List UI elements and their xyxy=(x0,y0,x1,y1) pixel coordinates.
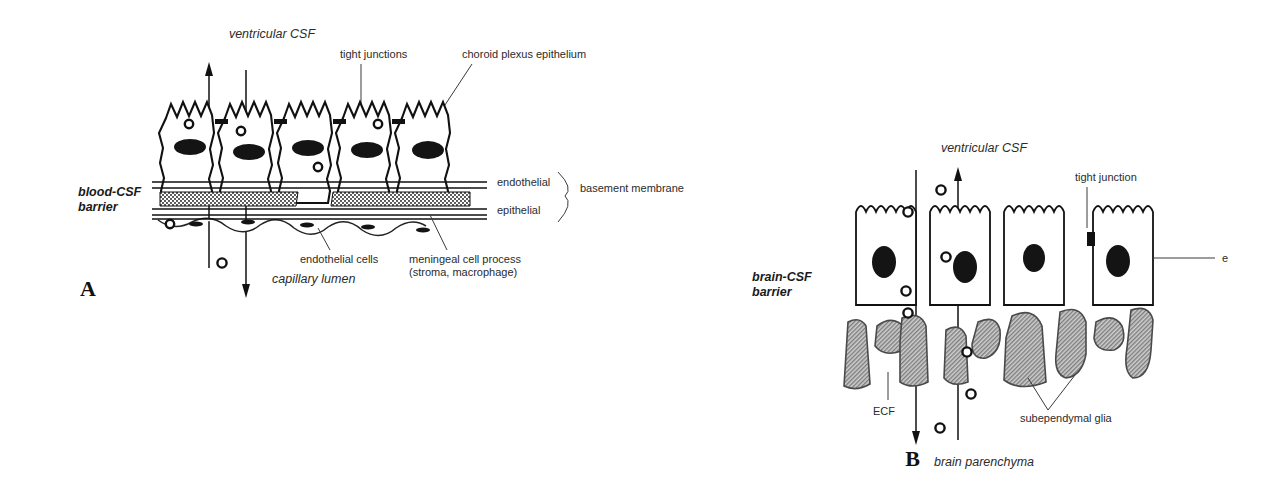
endo-nucleus-3 xyxy=(300,222,314,227)
tight-junction-2 xyxy=(274,119,287,124)
endo-nucleus-1 xyxy=(189,221,203,226)
panel-a-endothelial-cells-label: endothelial cells xyxy=(300,253,379,265)
endo-nucleus-5 xyxy=(416,227,430,232)
panel-b-barrier-label-line2: barrier xyxy=(752,285,793,299)
tracer-a-2 xyxy=(237,127,245,135)
glia-5 xyxy=(972,319,1000,358)
cp-nucleus-1 xyxy=(174,139,206,155)
tracer-a-4 xyxy=(374,120,382,128)
cp-nucleus-2 xyxy=(233,144,265,160)
panel-b-subependymal-glia xyxy=(844,308,1153,388)
panel-a-tight-junctions-label: tight junctions xyxy=(340,48,408,60)
panel-a-meningeal-cell-process-label-1: meningeal cell process xyxy=(409,253,521,265)
panel-b-ventricular-csf-label: ventricular CSF xyxy=(941,141,1028,155)
panel-a-barrier-label-line1: blood-CSF xyxy=(78,185,142,199)
leader-endothelial-cells xyxy=(318,228,330,250)
bm-stipple-left xyxy=(160,192,298,206)
tracer-b-8 xyxy=(935,423,944,432)
ep-nucleus-4 xyxy=(1106,245,1130,277)
tracer-b-3 xyxy=(941,252,950,261)
basement-membrane-brace xyxy=(558,172,568,222)
leader-choroid-epithelium xyxy=(443,64,472,108)
panel-b-up-arrow-head xyxy=(954,167,962,181)
tracer-a-1 xyxy=(185,120,193,128)
tracer-a-5 xyxy=(166,220,174,228)
tracer-b-4 xyxy=(901,286,910,295)
tight-junction-b-1 xyxy=(1087,232,1095,246)
panel-a-letter: A xyxy=(80,276,96,301)
panel-a-ventricular-csf-label: ventricular CSF xyxy=(229,27,316,41)
panel-b-barrier-label-line1: brain-CSF xyxy=(752,270,812,284)
endo-nucleus-4 xyxy=(361,224,375,229)
panel-b-letter: B xyxy=(905,446,920,471)
panel-b-ependyma-label: e xyxy=(1222,252,1228,264)
cp-nucleus-4 xyxy=(351,142,383,158)
glia-8 xyxy=(1094,318,1124,350)
panel-a-epithelial-label: epithelial xyxy=(497,204,540,216)
panel-a: ventricular CSF choroid plexus epitheliu… xyxy=(78,27,684,301)
tight-junction-1 xyxy=(215,119,228,124)
panel-a-barrier-label-line2: barrier xyxy=(78,200,119,214)
panel-a-choroid-plexus-epithelium-label: choroid plexus epithelium xyxy=(462,48,586,60)
tight-junction-4 xyxy=(392,119,405,124)
panel-b-down-arrow-head xyxy=(912,431,920,445)
glia-1 xyxy=(844,320,870,389)
bm-stipple-right xyxy=(331,192,470,206)
tracer-b-1 xyxy=(936,185,945,194)
cp-nucleus-3 xyxy=(292,140,324,156)
panel-b: ventricular CSF tight junction e xyxy=(752,141,1228,471)
tracer-b-2 xyxy=(903,207,912,216)
glia-6 xyxy=(1004,313,1046,387)
ep-nucleus-1 xyxy=(872,246,896,278)
endo-nucleus-2 xyxy=(241,219,255,224)
panel-a-down-arrow-head xyxy=(242,284,250,298)
panel-a-endothelium xyxy=(152,218,487,235)
figure-container: ventricular CSF choroid plexus epitheliu… xyxy=(0,0,1269,483)
tracer-a-6 xyxy=(217,258,226,267)
ep-nucleus-3 xyxy=(1023,244,1045,272)
tracer-a-3 xyxy=(314,163,322,171)
tracer-b-7 xyxy=(966,389,975,398)
tracer-b-6 xyxy=(962,347,971,356)
cp-nucleus-5 xyxy=(412,141,444,159)
panel-b-brain-parenchyma-label: brain parenchyma xyxy=(934,455,1034,469)
panel-b-ecf-label: ECF xyxy=(873,405,895,417)
panel-b-tight-junction-label: tight junction xyxy=(1075,171,1137,183)
panel-a-up-arrow-head xyxy=(205,62,213,76)
glia-9 xyxy=(1126,308,1153,378)
endothelial-border xyxy=(158,218,426,235)
panel-b-subependymal-glia-label: subependymal glia xyxy=(1020,412,1113,424)
panel-a-endothelial-label: endothelial xyxy=(497,176,550,188)
ep-nucleus-2 xyxy=(953,251,977,283)
panel-a-basement-membrane-label: basement membrane xyxy=(580,182,684,194)
glia-3 xyxy=(900,315,928,386)
tracer-b-5 xyxy=(903,308,912,317)
glia-7 xyxy=(1056,310,1086,378)
tight-junction-3 xyxy=(333,119,346,124)
panel-a-meningeal-cell-process-label-2: (stroma, macrophage) xyxy=(409,266,517,278)
leader-meningeal-cell-process xyxy=(430,215,447,250)
panel-a-capillary-lumen-label: capillary lumen xyxy=(272,272,355,286)
